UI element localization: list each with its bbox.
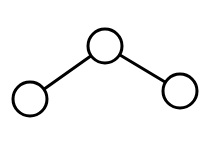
- tree-diagram: [0, 0, 204, 147]
- edge-root-right-child: [120, 55, 166, 83]
- node-left-child: [13, 82, 47, 116]
- node-root: [88, 29, 122, 63]
- node-right-child: [163, 74, 197, 108]
- nodes: [13, 29, 197, 116]
- edge-root-left-child: [44, 56, 91, 89]
